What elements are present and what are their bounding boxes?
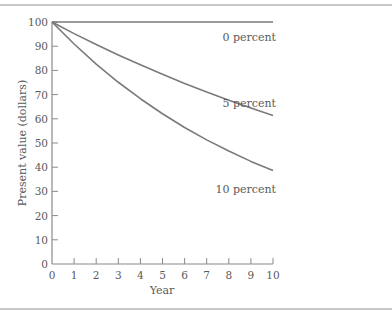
x-tick-label: 6 bbox=[181, 269, 188, 281]
x-tick-label: 5 bbox=[159, 269, 166, 281]
axes: 0102030405060708090100012345678910 bbox=[28, 16, 280, 281]
y-tick-label: 50 bbox=[35, 137, 48, 149]
series-label-5-percent: 5 percent bbox=[223, 97, 277, 110]
present-value-chart: 0102030405060708090100012345678910 Year … bbox=[0, 0, 392, 316]
y-tick-label: 80 bbox=[35, 64, 48, 76]
x-tick-label: 7 bbox=[203, 269, 210, 281]
series-label-0-percent: 0 percent bbox=[223, 31, 277, 44]
x-tick-label: 10 bbox=[266, 269, 279, 281]
x-tick-label: 0 bbox=[49, 269, 56, 281]
y-tick-label: 90 bbox=[35, 40, 48, 52]
y-tick-label: 60 bbox=[35, 113, 48, 125]
x-tick-label: 2 bbox=[93, 269, 100, 281]
y-axis-title: Present value (dollars) bbox=[16, 80, 29, 206]
y-tick-label: 100 bbox=[28, 16, 48, 28]
x-tick-label: 3 bbox=[115, 269, 122, 281]
y-tick-label: 20 bbox=[35, 210, 48, 222]
x-tick-label: 1 bbox=[71, 269, 78, 281]
series-label-10-percent: 10 percent bbox=[216, 183, 277, 196]
y-tick-label: 10 bbox=[35, 234, 48, 246]
x-tick-label: 8 bbox=[225, 269, 232, 281]
x-axis-title: Year bbox=[149, 284, 175, 297]
y-tick-label: 30 bbox=[35, 185, 48, 197]
y-tick-label: 0 bbox=[41, 258, 48, 270]
x-tick-label: 9 bbox=[248, 269, 255, 281]
y-tick-label: 70 bbox=[35, 89, 48, 101]
x-tick-label: 4 bbox=[137, 269, 144, 281]
y-tick-label: 40 bbox=[35, 161, 48, 173]
